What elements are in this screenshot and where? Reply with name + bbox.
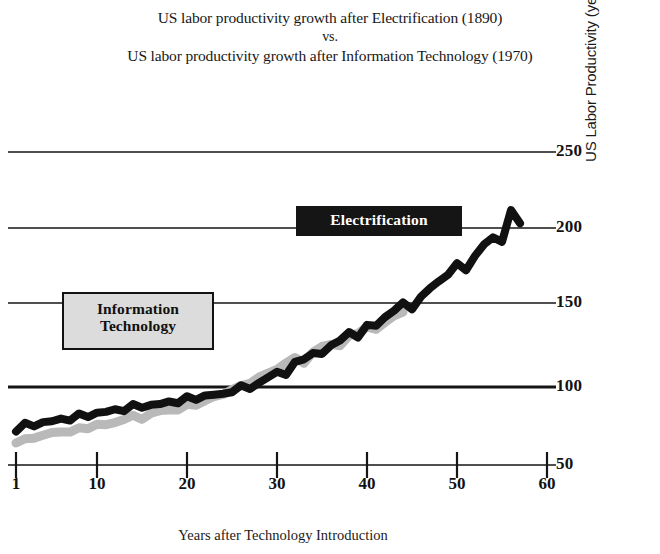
y-axis-tick-label-150: 150 bbox=[556, 292, 608, 312]
x-axis-tick-label-10: 10 bbox=[74, 474, 120, 494]
y-axis-title: US Labor Productivity (year 26 = 100) bbox=[582, 0, 610, 162]
x-axis-tick-label-40: 40 bbox=[344, 474, 390, 494]
x-axis-title: Years after Technology Introduction bbox=[0, 527, 566, 544]
series-callout-information-technology: Information Technology bbox=[62, 292, 214, 350]
x-axis-tick-label-20: 20 bbox=[164, 474, 210, 494]
x-axis-tick-label-1: 1 bbox=[0, 474, 39, 494]
gridlines bbox=[8, 152, 556, 387]
x-axis-tick-label-50: 50 bbox=[434, 474, 480, 494]
callout-it-line-2: Technology bbox=[64, 317, 212, 334]
y-axis-tick-label-200: 200 bbox=[556, 217, 608, 237]
chart-figure: US labor productivity growth after Elect… bbox=[0, 0, 660, 554]
x-axis-tick-label-60: 60 bbox=[524, 474, 570, 494]
y-axis-tick-label-100: 100 bbox=[556, 376, 608, 396]
x-axis-tick-label-30: 30 bbox=[254, 474, 300, 494]
callout-it-line-1: Information bbox=[64, 300, 212, 317]
y-axis-tick-label-50: 50 bbox=[556, 454, 608, 474]
series-callout-electrification: Electrification bbox=[296, 206, 462, 236]
